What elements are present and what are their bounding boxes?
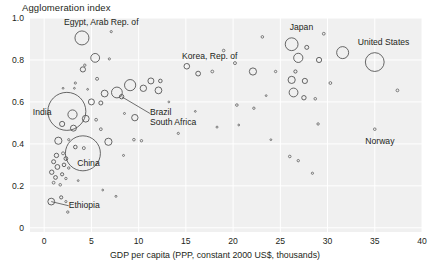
bubble-marker bbox=[74, 145, 78, 149]
bubble-marker bbox=[102, 189, 104, 191]
bubble-marker bbox=[314, 97, 317, 100]
chart-title: Agglomeration index bbox=[22, 2, 111, 13]
point-label: South Africa bbox=[150, 117, 196, 127]
y-axis-tick-label: 0.4 bbox=[0, 139, 24, 149]
bubble-marker bbox=[274, 70, 276, 72]
bubble-marker bbox=[60, 121, 65, 126]
x-axis-tick-label: 40 bbox=[407, 236, 430, 246]
bubble-marker bbox=[75, 31, 89, 45]
bubble-marker bbox=[87, 88, 89, 90]
bubble-marker bbox=[155, 87, 162, 94]
bubble-marker bbox=[297, 159, 299, 161]
x-axis-tick-label: 5 bbox=[76, 236, 106, 246]
bubble-marker bbox=[68, 110, 77, 119]
x-axis-tick-label: 10 bbox=[124, 236, 154, 246]
bubble-marker bbox=[54, 176, 58, 180]
bubble-marker bbox=[55, 165, 60, 170]
x-axis-tick-label: 0 bbox=[29, 236, 59, 246]
bubble-marker bbox=[52, 160, 56, 164]
bubble-marker bbox=[101, 90, 108, 97]
bubble-marker bbox=[68, 167, 70, 169]
bubble-marker bbox=[110, 31, 112, 33]
point-label: United States bbox=[358, 37, 410, 47]
bubble-marker bbox=[50, 170, 54, 174]
bubble-marker bbox=[62, 87, 64, 89]
bubble-marker bbox=[302, 78, 307, 83]
point-label: India bbox=[33, 107, 52, 117]
y-axis-tick-label: 0 bbox=[0, 223, 24, 233]
bubble-marker bbox=[148, 78, 154, 84]
bubble-marker bbox=[60, 196, 63, 199]
bubble-marker bbox=[48, 92, 86, 130]
bubble-marker bbox=[123, 154, 125, 156]
bubble-marker bbox=[52, 181, 55, 184]
bubble-marker bbox=[311, 172, 313, 174]
x-axis-label: GDP per capita (PPP, constant 2000 US$, … bbox=[0, 250, 430, 260]
x-axis-tick-label: 30 bbox=[313, 236, 343, 246]
bubble-marker bbox=[68, 139, 70, 141]
point-label: Ethiopia bbox=[69, 200, 100, 210]
bubble-marker bbox=[108, 58, 110, 60]
point-label: Norway bbox=[365, 136, 394, 146]
bubble-marker bbox=[74, 82, 76, 84]
bubble-marker bbox=[67, 211, 69, 213]
bubble-marker bbox=[82, 147, 85, 150]
bubble-marker bbox=[236, 104, 239, 107]
bubble-marker bbox=[294, 53, 303, 62]
point-label: Egypt, Arab Rep. of bbox=[64, 17, 139, 27]
bubble-marker bbox=[140, 85, 146, 91]
bubble-marker bbox=[82, 115, 89, 122]
bubble-marker bbox=[294, 70, 297, 73]
bubble-marker bbox=[177, 132, 179, 134]
bubble-marker bbox=[288, 155, 291, 158]
bubble-marker bbox=[132, 114, 138, 120]
bubble-marker bbox=[184, 63, 190, 69]
bubble-marker bbox=[99, 128, 102, 131]
bubble-marker bbox=[65, 177, 67, 179]
bubble-marker bbox=[62, 163, 66, 167]
x-axis-tick-label: 20 bbox=[218, 236, 248, 246]
bubble-marker bbox=[84, 64, 86, 66]
source-note bbox=[30, 266, 410, 271]
bubble-marker bbox=[261, 36, 264, 39]
bubble-marker bbox=[317, 123, 319, 125]
bubble-marker bbox=[133, 138, 136, 141]
bubble-marker bbox=[216, 126, 218, 128]
bubble-marker bbox=[123, 112, 125, 114]
bubble-marker bbox=[73, 87, 75, 89]
bubble-marker bbox=[112, 87, 123, 98]
bubble-marker bbox=[140, 140, 142, 142]
bubble-marker bbox=[80, 67, 85, 72]
bubble-marker bbox=[289, 88, 298, 97]
point-label: Japan bbox=[290, 22, 313, 32]
bubble-marker bbox=[54, 153, 58, 157]
x-axis-tick-label: 35 bbox=[360, 236, 390, 246]
bubble-marker bbox=[62, 152, 65, 155]
chart-figure: Agglomeration index 00.20.40.60.81.0 051… bbox=[0, 0, 430, 271]
bubble-marker bbox=[396, 89, 399, 92]
bubble-marker bbox=[196, 71, 201, 76]
bubble-marker bbox=[249, 68, 256, 75]
bubble-marker bbox=[285, 38, 298, 51]
bubble-marker bbox=[159, 79, 163, 83]
bubble-marker bbox=[322, 32, 325, 35]
bubble-marker bbox=[337, 47, 349, 59]
bubble-marker bbox=[238, 124, 240, 126]
bubble-marker bbox=[77, 180, 79, 182]
bubble-marker bbox=[96, 77, 99, 80]
point-label: Korea, Rep. of bbox=[182, 51, 237, 61]
bubble-marker bbox=[65, 200, 67, 202]
bubble-marker bbox=[270, 139, 272, 141]
bubble-marker bbox=[302, 96, 306, 100]
bubble-marker bbox=[115, 195, 117, 197]
bubble-marker bbox=[125, 80, 136, 91]
bubble-marker bbox=[55, 137, 62, 144]
bubble-marker bbox=[211, 70, 214, 73]
bubble-marker bbox=[95, 118, 98, 121]
x-axis-tick-label: 15 bbox=[171, 236, 201, 246]
bubble-marker bbox=[61, 173, 64, 176]
bubble-marker bbox=[253, 107, 255, 109]
y-axis-tick-label: 0.2 bbox=[0, 181, 24, 191]
leader-line bbox=[122, 97, 150, 114]
y-axis-tick-label: 0.8 bbox=[0, 55, 24, 65]
